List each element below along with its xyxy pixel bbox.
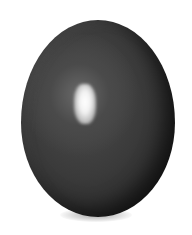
dark-egg-object bbox=[21, 20, 175, 217]
specular-highlight bbox=[74, 84, 96, 124]
egg-photo-scene bbox=[0, 0, 192, 235]
